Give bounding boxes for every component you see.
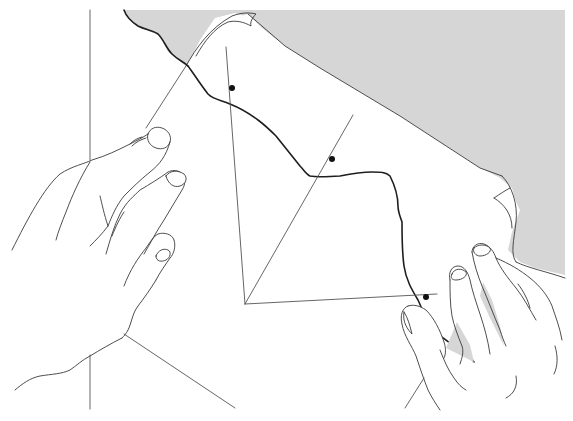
line-drawing — [0, 0, 573, 421]
point-lower — [423, 294, 429, 300]
illustration-canvas: Two hands holding a sheet of paper with … — [0, 0, 573, 421]
point-middle — [329, 156, 335, 162]
point-upper — [229, 85, 235, 91]
left-hand-index-nail — [147, 127, 170, 149]
